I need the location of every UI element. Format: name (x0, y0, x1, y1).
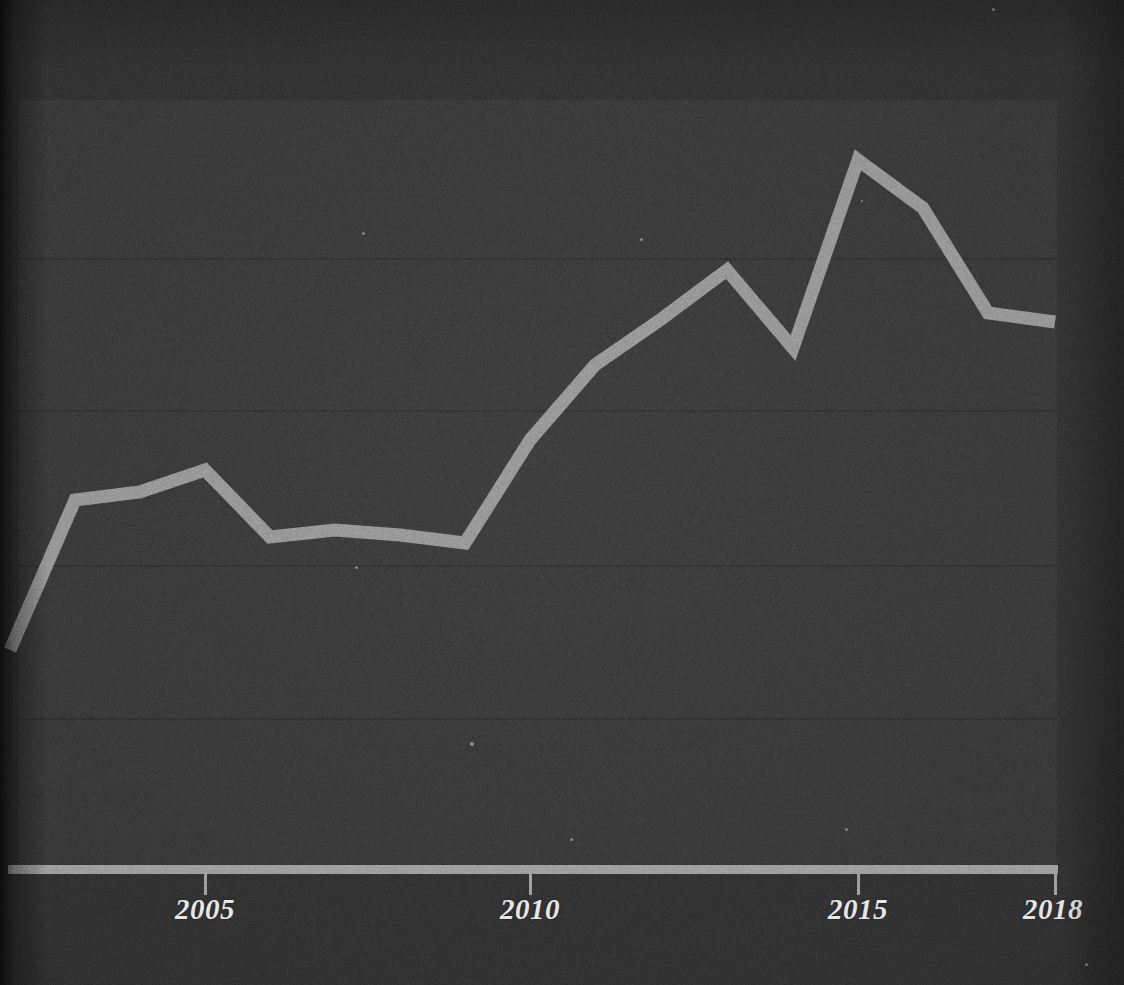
dust-speck (992, 8, 995, 11)
x-axis-tick (857, 873, 860, 895)
x-axis-tick-label-2010: 2010 (500, 893, 560, 926)
chart-page: 2005 2010 2015 2018 (0, 0, 1124, 985)
x-axis-line (8, 865, 1058, 874)
dust-speck (470, 742, 474, 746)
dust-speck (861, 200, 863, 202)
x-axis-tick (204, 873, 207, 895)
dust-speck (362, 232, 365, 235)
line-series-svg (0, 0, 1124, 985)
dust-speck (355, 566, 358, 569)
x-axis-tick (529, 873, 532, 895)
dust-speck (1085, 963, 1088, 966)
dust-speck (570, 838, 573, 841)
x-axis-tick-label-2015: 2015 (828, 893, 888, 926)
data-line-series (10, 160, 1055, 650)
x-axis-tick (1054, 873, 1057, 895)
x-axis-tick-label-2005: 2005 (175, 893, 235, 926)
dust-speck (640, 238, 643, 241)
dust-speck (845, 828, 848, 831)
x-axis-tick-label-2018: 2018 (1023, 893, 1083, 926)
